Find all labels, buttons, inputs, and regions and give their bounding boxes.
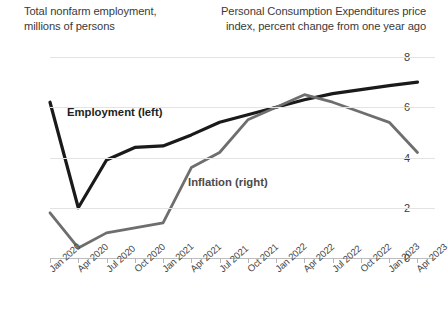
gridline	[50, 158, 435, 159]
x-axis: Jan 2020Apr 2020Jul 2020Oct 2020Jan 2021…	[0, 258, 448, 268]
gridline	[50, 208, 435, 209]
gridline	[50, 57, 435, 58]
series-label-employment: Employment (left)	[67, 106, 162, 118]
chart-figure: Total nonfarm employment, millions of pe…	[0, 0, 448, 323]
series-line-employment	[50, 82, 417, 208]
series-label-inflation: Inflation (right)	[188, 176, 268, 188]
plot-area	[50, 57, 435, 258]
